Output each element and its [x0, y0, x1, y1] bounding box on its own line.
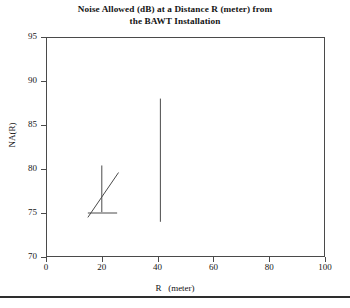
- data-series-layer: [0, 0, 350, 308]
- series-diagonal-trend: [88, 173, 119, 218]
- footer-rule: [0, 296, 350, 298]
- x-axis-label: R (meter): [0, 283, 350, 293]
- y-axis-label: NA(R): [7, 105, 17, 165]
- figure-container: Noise Allowed (dB) at a Distance R (mete…: [0, 0, 350, 308]
